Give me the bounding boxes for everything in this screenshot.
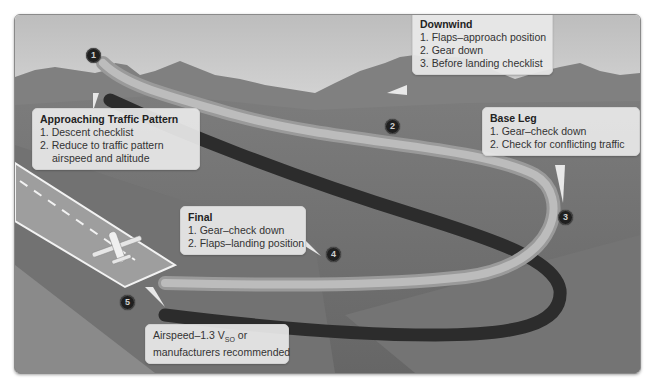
callout-title: Downwind [420, 18, 545, 31]
diagram-frame: 1 2 3 4 5 Approaching Traffic Pattern 1.… [14, 14, 641, 374]
callout-item: manufacturers recommended [153, 346, 281, 359]
callout-item: 2. Check for conflicting traffic [490, 138, 632, 151]
vso-subscript: SO [225, 336, 235, 343]
callout-downwind: Downwind 1. Flaps–approach position 2. G… [412, 14, 553, 75]
callout-title: Final [188, 211, 298, 224]
airspeed-suffix: or [235, 329, 247, 341]
callout-item: 3. Before landing checklist [420, 57, 545, 70]
airspeed-prefix: Airspeed–1.3 V [153, 329, 225, 341]
callout-item: 1. Gear–check down [188, 224, 298, 237]
callout-item: 2. Reduce to traffic pattern [40, 139, 192, 152]
callout-item: 1. Flaps–approach position [420, 31, 545, 44]
callout-item: airspeed and altitude [40, 152, 192, 165]
callout-touchdown-airspeed: Airspeed–1.3 VSO or manufacturers recomm… [145, 324, 289, 364]
marker-5: 5 [120, 295, 135, 310]
marker-1: 1 [86, 48, 101, 63]
callout-base-leg: Base Leg 1. Gear–check down 2. Check for… [482, 107, 640, 156]
marker-3: 3 [558, 210, 573, 225]
callout-title: Approaching Traffic Pattern [40, 113, 192, 126]
callout-item: 1. Gear–check down [490, 125, 632, 138]
callout-item: Airspeed–1.3 VSO or [153, 329, 281, 346]
callout-final: Final 1. Gear–check down 2. Flaps–landin… [180, 206, 306, 255]
marker-4: 4 [326, 247, 341, 262]
callout-approaching-traffic-pattern: Approaching Traffic Pattern 1. Descent c… [32, 108, 200, 170]
callout-item: 2. Gear down [420, 44, 545, 57]
callout-title: Base Leg [490, 112, 632, 125]
callout-item: 1. Descent checklist [40, 126, 192, 139]
marker-2: 2 [385, 119, 400, 134]
callout-item: 2. Flaps–landing position [188, 237, 298, 250]
